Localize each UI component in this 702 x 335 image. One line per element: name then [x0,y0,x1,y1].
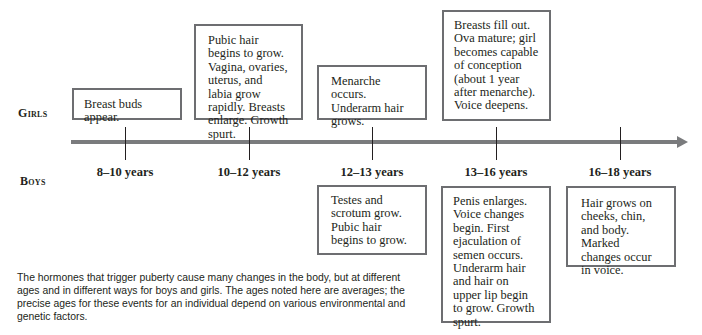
girls-event-text: Pubic hair begins to grow. Vagina, ovari… [208,33,288,141]
row-label-girls: Girls [18,106,48,121]
girls-event-box-12-13: Menarche occurs. Underarm hair grows. [317,65,427,120]
boys-event-box-13-16: Penis enlarges. Voice changes begin. Fir… [441,186,551,323]
row-label-boys: Boys [20,174,46,189]
girls-event-box-8-10: Breast buds appear. [72,88,182,120]
girls-event-box-10-12: Pubic hair begins to grow. Vagina, ovari… [194,24,303,120]
boys-event-text: Testes and scrotum grow. Pubic hair begi… [331,193,407,247]
figure-caption: The hormones that trigger puberty cause … [17,271,417,323]
timeline-arrow-icon [677,136,688,148]
age-label: 13–16 years [465,165,528,180]
timeline-tick [125,127,126,160]
age-label: 8–10 years [97,165,154,180]
age-label: 16–18 years [589,165,652,180]
girls-event-text: Breast buds appear. [84,97,142,124]
girls-event-text: Menarche occurs. Underarm hair grows. [331,74,404,128]
girls-event-text: Breasts fill out. Ova mature; girl becom… [454,18,538,112]
timeline-tick [496,127,497,160]
boys-event-text: Hair grows on cheeks, chin, and body. Ma… [581,196,652,277]
boys-event-box-12-13: Testes and scrotum grow. Pubic hair begi… [317,185,427,255]
timeline-tick [372,127,373,160]
timeline-bar [71,140,679,144]
girls-event-box-13-16: Breasts fill out. Ova mature; girl becom… [442,10,551,121]
age-label: 12–13 years [341,165,404,180]
boys-event-text: Penis enlarges. Voice changes begin. Fir… [453,194,534,329]
boys-event-box-16-18: Hair grows on cheeks, chin, and body. Ma… [566,186,676,267]
timeline-tick [620,127,621,160]
age-label: 10–12 years [218,165,281,180]
timeline-tick [249,127,250,160]
